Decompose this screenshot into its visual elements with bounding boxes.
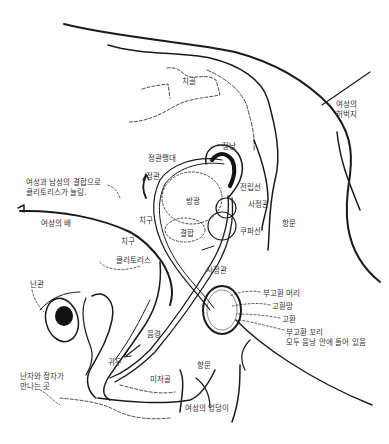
label-prostate: 전립선 xyxy=(240,183,261,193)
label-anus-male: 항문 xyxy=(282,219,296,229)
uterus-outline xyxy=(88,294,113,398)
label-female-belly: 여성의 배 xyxy=(41,219,71,229)
leader-note xyxy=(108,185,120,198)
label-bladder: 방광 xyxy=(186,197,200,207)
label-pubic-hair-female: 치구 xyxy=(121,237,135,247)
label-epididymis-tail: 부고환 꼬리 xyxy=(286,328,323,338)
label-female-thigh: 여성의허벅지 xyxy=(336,100,357,120)
label-ejaculatory-duct: 사정관 xyxy=(248,200,269,210)
pubic-bone-inner xyxy=(142,84,170,98)
label-ejaculatory-duct-2: 사정관 xyxy=(206,266,227,276)
label-fallopian-tube: 난관 xyxy=(30,280,44,290)
label-vas-deferens: 정관 xyxy=(146,172,160,182)
arrow-left xyxy=(202,246,214,250)
label-glans: 귀두 xyxy=(108,358,122,368)
label-testis: 고환 xyxy=(282,315,296,325)
label-pubic-bone: 치골 xyxy=(182,77,196,87)
label-pubic-hair-male: 치구 xyxy=(139,216,153,226)
leader-fallopian xyxy=(32,290,44,312)
label-fertilization-site: 난자와 정자가만나는 곳 xyxy=(20,372,64,392)
label-seminal-vesicle: 정낭 xyxy=(222,142,236,152)
testis-shape xyxy=(203,286,241,334)
pubic-bone-outline xyxy=(128,68,220,122)
leader-fertilization xyxy=(40,390,60,405)
label-ampulla: 정관팽대 xyxy=(148,154,176,164)
label-union: 결합 xyxy=(180,229,194,239)
label-seminiferous-tubules: 고환망 xyxy=(272,302,293,312)
leader-epididymis-tail xyxy=(240,320,284,330)
label-clitoris: 클리토리스 xyxy=(116,256,151,266)
label-scrotum-note: 모두 음낭 안에 들어 있음 xyxy=(286,338,366,348)
label-female-buttocks: 여성의 엉덩이 xyxy=(185,404,229,414)
leader-tubules xyxy=(232,303,270,306)
label-penis: 음경 xyxy=(147,330,161,340)
label-epididymis-head: 부고환 머리 xyxy=(263,289,300,299)
label-tailbone: 미저골 xyxy=(150,375,171,385)
label-cowper-gland: 쿠퍼선 xyxy=(240,227,261,237)
leader-testis xyxy=(236,314,280,318)
female-buttock-curve xyxy=(180,370,183,412)
female-tailbone xyxy=(120,385,175,393)
label-anus-female: 항문 xyxy=(197,361,211,371)
spine-line xyxy=(207,70,254,150)
label-note-clitoris: 여성과 남성의 결합으로클리토리스가 눌림. xyxy=(26,178,101,198)
